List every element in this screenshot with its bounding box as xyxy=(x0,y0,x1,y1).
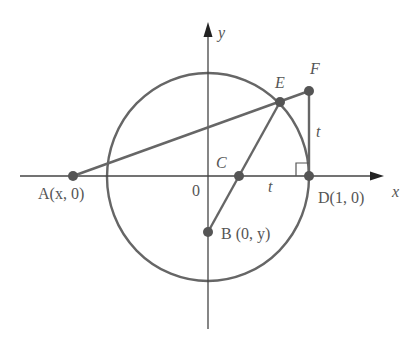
label-F: F xyxy=(309,60,320,77)
x-axis-label: x xyxy=(391,183,399,200)
point-F xyxy=(304,86,314,96)
label-B: B (0, y) xyxy=(221,225,270,243)
y-axis-arrow-icon xyxy=(204,22,213,37)
geometry-diagram: y x 0 A(x, 0) B (0, y) C D(1, 0) E F t t xyxy=(0,0,416,341)
label-t-DF: t xyxy=(316,123,321,140)
label-A: A(x, 0) xyxy=(38,185,84,203)
label-t-CD: t xyxy=(268,178,273,195)
label-E: E xyxy=(274,74,285,91)
origin-label: 0 xyxy=(192,182,200,199)
label-D: D(1, 0) xyxy=(318,189,364,207)
point-C xyxy=(234,171,244,181)
segment-AF xyxy=(73,91,309,176)
point-A xyxy=(68,171,78,181)
point-E xyxy=(275,97,285,107)
point-B xyxy=(203,227,213,237)
x-axis-arrow-icon xyxy=(370,172,384,181)
point-D xyxy=(304,171,314,181)
label-C: C xyxy=(216,154,227,171)
y-axis-label: y xyxy=(216,24,226,42)
